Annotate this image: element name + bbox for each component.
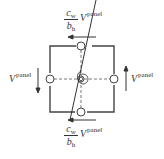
top-coef-num-sub: w	[71, 12, 76, 20]
bottom-coef-den: b	[67, 136, 72, 147]
bottom-coef-den-sub: h	[72, 141, 76, 149]
node-bottom	[77, 108, 85, 116]
top-force-label: Vpanel	[80, 13, 102, 23]
arrow-left-bottom-icon	[68, 118, 73, 122]
node-top	[77, 42, 85, 50]
top-coef-fraction: cw bh	[64, 8, 78, 31]
bottom-coef-num-sub: w	[71, 128, 76, 136]
bottom-force-symbol: V	[80, 128, 86, 139]
left-force-superscript: panel	[16, 71, 31, 79]
right-force-label: Vpanel	[131, 74, 153, 84]
arrow-left-top-icon	[68, 35, 73, 39]
top-force-symbol: V	[80, 12, 86, 23]
left-force-symbol: V	[9, 73, 15, 84]
top-coef-den-sub: h	[72, 25, 76, 33]
bottom-force-label: Vpanel	[80, 129, 102, 139]
bottom-force-superscript: panel	[87, 126, 102, 134]
arrow-down-icon	[36, 88, 40, 93]
top-force-superscript: panel	[87, 10, 102, 18]
top-coef-den: b	[67, 20, 72, 31]
node-right	[110, 75, 118, 83]
node-left	[46, 75, 54, 83]
right-force-superscript: panel	[138, 71, 153, 79]
right-force-symbol: V	[131, 73, 137, 84]
arrow-up-icon	[124, 66, 128, 71]
bottom-coef-fraction: cw bh	[64, 124, 78, 147]
left-force-label: Vpanel	[9, 74, 31, 84]
